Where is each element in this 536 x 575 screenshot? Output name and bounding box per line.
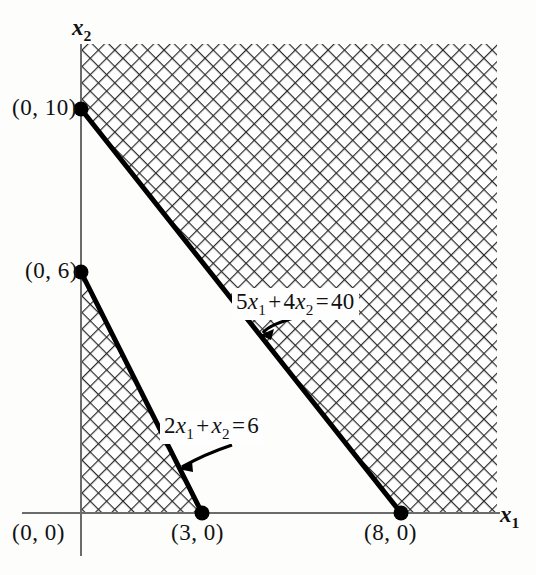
graph-figure: x2 x1 (0, 10) (0, 6) (0, 0) (3, 0) (8, 0…	[0, 0, 536, 575]
y-axis-label-var: x	[72, 15, 84, 40]
eq1-var2: x	[295, 289, 306, 314]
eq2-equals: =	[230, 413, 247, 438]
eq2-var1: x	[176, 413, 187, 438]
point-label-0-6: (0, 6)	[25, 259, 78, 282]
eq2-sub2: 2	[222, 425, 230, 442]
point-3-0	[195, 506, 210, 521]
eq2-rhs: 6	[247, 413, 259, 438]
y-axis-label-sub: 2	[84, 27, 92, 44]
eq1-rhs: 40	[331, 289, 355, 314]
point-8-0	[394, 506, 409, 521]
point-label-3-0: (3, 0)	[171, 521, 224, 544]
eq2-var2: x	[212, 413, 223, 438]
eq1-operator: +	[266, 289, 283, 314]
equation-label-5x1-4x2-40: 5x1+4x2=40	[232, 288, 359, 320]
equation-label-2x1-x2-6: 2x1+x2=6	[160, 412, 263, 444]
eq1-coef1: 5	[236, 289, 248, 314]
eq1-coef2: 4	[284, 289, 296, 314]
eq2-operator: +	[194, 413, 211, 438]
x-axis-label: x1	[500, 503, 519, 530]
eq1-var1: x	[248, 289, 259, 314]
point-label-0-0: (0, 0)	[12, 521, 65, 544]
eq1-sub2: 2	[306, 301, 314, 318]
x-axis-label-sub: 1	[512, 514, 520, 531]
point-label-0-10: (0, 10)	[12, 96, 77, 119]
point-label-8-0: (8, 0)	[364, 521, 417, 544]
eq1-equals: =	[314, 289, 331, 314]
eq2-coef1: 2	[164, 413, 176, 438]
x-axis-label-var: x	[500, 502, 512, 527]
y-axis-label: x2	[72, 16, 91, 43]
annotation-arrow-2x1-x2-6	[178, 445, 232, 472]
